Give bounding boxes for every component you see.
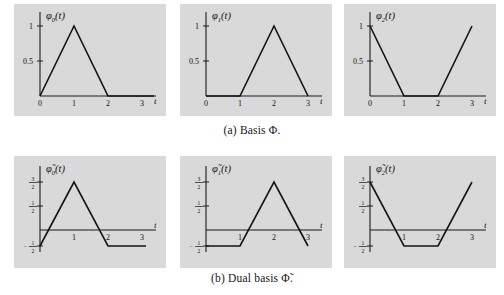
curve-phi2: [370, 26, 472, 96]
plot-title: φ̃2(t): [376, 163, 395, 176]
ytick-label-minus-1-over-2: − 1 2: [353, 240, 367, 254]
xtick-label: 2: [106, 99, 110, 108]
subfigure-b-plots: 3 2 1 2 − 1 2 1 2 3: [0, 156, 504, 278]
svg-text:3: 3: [198, 176, 201, 182]
curve-dual-phi2: [370, 182, 472, 246]
ytick-label-1-over-2: 1 2: [29, 200, 37, 214]
xtick-label: 3: [306, 99, 310, 108]
curve-dual-phi1: [206, 182, 308, 246]
svg-text:2: 2: [32, 184, 35, 190]
svg-text:1: 1: [362, 200, 365, 206]
svg-text:1: 1: [198, 200, 201, 206]
plot-title: φ2(t): [376, 10, 395, 23]
plot-title: φ̃0(t): [46, 163, 65, 176]
ytick-label: 0.5: [189, 57, 199, 66]
svg-text:3: 3: [32, 176, 35, 182]
xtick-label: 3: [470, 99, 474, 108]
ytick-label-3-over-2: 3 2: [29, 176, 37, 190]
xtick-label: 2: [106, 233, 110, 242]
xtick-label: 2: [436, 233, 440, 242]
xtick-label: 0: [368, 99, 372, 108]
figure-basis-and-dual-basis: 1 0.5 0 1 2 3 t φ0(t): [0, 0, 504, 295]
ytick-label-3-over-2: 3 2: [195, 176, 203, 190]
ytick-label: 1: [195, 22, 199, 31]
ytick-label: 1: [29, 22, 33, 31]
svg-text:2: 2: [362, 184, 365, 190]
caption-subfigure-b: (b) Dual basis Φ̃.: [0, 272, 504, 284]
curve-dual-phi0: [40, 182, 146, 246]
xtick-label: 1: [238, 99, 242, 108]
xtick-label: 2: [436, 99, 440, 108]
svg-text:2: 2: [362, 208, 365, 214]
xtick-label: 0: [38, 99, 42, 108]
caption-subfigure-a: (a) Basis Φ.: [0, 124, 504, 136]
curve-phi1: [206, 26, 308, 96]
xaxis-label: t: [154, 96, 157, 106]
ytick-label-minus-1-over-2: − 1 2: [189, 240, 203, 254]
plot-phi0: 1 0.5 0 1 2 3 t φ0(t): [14, 4, 166, 116]
svg-text:2: 2: [198, 248, 201, 254]
svg-text:2: 2: [362, 248, 365, 254]
plot-title: φ̃1(t): [212, 163, 231, 176]
svg-text:−: −: [23, 243, 26, 249]
plot-phi2: 1 0.5 0 1 2 3 t φ2(t): [344, 4, 496, 116]
xtick-label: 1: [402, 233, 406, 242]
xtick-label: 2: [272, 99, 276, 108]
ytick-label-1-over-2: 1 2: [359, 200, 367, 214]
ytick-label: 0.5: [353, 57, 363, 66]
svg-text:1: 1: [32, 240, 35, 246]
plot-title: φ0(t): [46, 10, 65, 23]
ytick-label: 0.5: [23, 57, 33, 66]
plot-phi1: 1 0.5 0 1 2 3 t φ1(t): [180, 4, 332, 116]
xaxis-label: t: [320, 220, 323, 230]
svg-text:−: −: [189, 243, 192, 249]
xaxis-label: t: [484, 96, 487, 106]
svg-text:1: 1: [32, 200, 35, 206]
svg-text:1: 1: [198, 240, 201, 246]
svg-text:1: 1: [362, 240, 365, 246]
xtick-label: 0: [204, 99, 208, 108]
ytick-label-minus-1-over-2: − 1 2: [23, 240, 37, 254]
svg-text:3: 3: [362, 176, 365, 182]
svg-text:2: 2: [32, 248, 35, 254]
curve-phi0: [40, 26, 154, 96]
xtick-label: 3: [306, 233, 310, 242]
subfigure-a-plots: 1 0.5 0 1 2 3 t φ0(t): [0, 4, 504, 126]
ytick-label-3-over-2: 3 2: [359, 176, 367, 190]
xaxis-label: t: [320, 96, 323, 106]
xaxis-label: t: [484, 220, 487, 230]
xtick-label: 3: [140, 233, 144, 242]
ytick-label: 1: [359, 22, 363, 31]
xtick-label: 3: [470, 233, 474, 242]
xtick-label: 1: [238, 233, 242, 242]
svg-text:2: 2: [32, 208, 35, 214]
xtick-label: 1: [72, 99, 76, 108]
plot-dual-phi0: 3 2 1 2 − 1 2 1 2 3: [14, 156, 166, 268]
svg-text:2: 2: [198, 184, 201, 190]
plot-dual-phi1: 3 2 1 2 − 1 2 1 2 3 t: [180, 156, 332, 268]
xtick-label: 2: [272, 233, 276, 242]
xtick-label: 1: [72, 233, 76, 242]
ytick-label-1-over-2: 1 2: [195, 200, 203, 214]
xtick-label: 3: [140, 99, 144, 108]
svg-text:−: −: [353, 243, 356, 249]
plot-dual-phi2: 3 2 1 2 − 1 2 1 2 3 t: [344, 156, 496, 268]
xaxis-label: t: [154, 220, 157, 230]
xtick-label: 1: [402, 99, 406, 108]
svg-text:2: 2: [198, 208, 201, 214]
plot-title: φ1(t): [212, 10, 231, 23]
